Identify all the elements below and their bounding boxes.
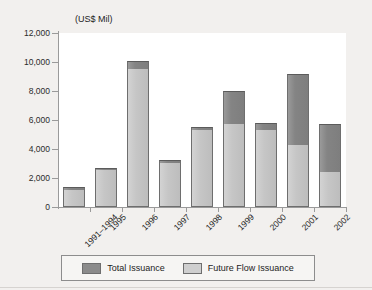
x-tick-label: 1996 xyxy=(140,212,160,232)
y-axis-title: (US$ Mil) xyxy=(75,14,113,24)
bar-group[interactable] xyxy=(191,127,213,207)
x-tick-label: 1999 xyxy=(236,212,256,232)
y-tick-label: 0 xyxy=(2,203,50,211)
bar-segment-future-flow-issuance[interactable] xyxy=(319,172,341,207)
y-tick-label: 6,000 xyxy=(2,116,50,124)
bar-group[interactable] xyxy=(255,123,277,207)
bar-group[interactable] xyxy=(319,124,341,207)
x-tick-label: 2001 xyxy=(300,212,320,232)
bar-group[interactable] xyxy=(159,160,181,207)
x-tick-mark xyxy=(282,207,283,212)
legend-swatch-total-issuance xyxy=(82,263,101,274)
y-tick-label: 10,000 xyxy=(2,58,50,66)
bar-segment-future-flow-issuance[interactable] xyxy=(63,190,85,207)
chart-container: (US$ Mil) 12,00010,0008,0006,0004,0002,0… xyxy=(0,0,372,290)
bar-segment-future-flow-issuance[interactable] xyxy=(127,69,149,207)
bar-segment-future-flow-issuance[interactable] xyxy=(255,130,277,207)
y-tick-label: 4,000 xyxy=(2,145,50,153)
x-tick-mark xyxy=(90,207,91,212)
bar-segment-total-issuance[interactable] xyxy=(319,124,341,172)
x-tick-mark xyxy=(250,207,251,212)
x-tick-label: 1995 xyxy=(108,212,128,232)
bottom-divider xyxy=(0,287,372,288)
x-tick-label: 1998 xyxy=(204,212,224,232)
y-tick-label: 12,000 xyxy=(2,29,50,37)
bar-segment-total-issuance[interactable] xyxy=(287,74,309,146)
bar-segment-future-flow-issuance[interactable] xyxy=(95,170,117,207)
bar-group[interactable] xyxy=(63,187,85,207)
bar-segment-future-flow-issuance[interactable] xyxy=(287,145,309,207)
legend-item-future-flow-issuance: Future Flow Issuance xyxy=(183,263,294,274)
bar-segment-future-flow-issuance[interactable] xyxy=(223,124,245,207)
x-tick-label: 1991–1994 xyxy=(82,212,119,249)
legend-label-future-flow-issuance: Future Flow Issuance xyxy=(208,263,294,273)
x-tick-mark xyxy=(186,207,187,212)
x-tick-label: 1997 xyxy=(172,212,192,232)
bar-group[interactable] xyxy=(287,74,309,207)
chart-legend: Total Issuance Future Flow Issuance xyxy=(61,255,315,281)
legend-swatch-future-flow-issuance xyxy=(183,263,202,274)
y-tick-label: 2,000 xyxy=(2,174,50,182)
bar-group[interactable] xyxy=(95,168,117,207)
x-tick-label: 2002 xyxy=(332,212,352,232)
x-axis-line xyxy=(58,207,347,208)
bar-segment-future-flow-issuance[interactable] xyxy=(191,130,213,207)
bar-segment-total-issuance[interactable] xyxy=(255,123,277,130)
x-tick-mark xyxy=(314,207,315,212)
x-tick-mark xyxy=(122,207,123,212)
legend-item-total-issuance: Total Issuance xyxy=(82,263,165,274)
y-tick-mark xyxy=(52,207,59,208)
bar-segment-total-issuance[interactable] xyxy=(127,61,149,69)
legend-label-total-issuance: Total Issuance xyxy=(107,263,165,273)
x-tick-label: 2000 xyxy=(268,212,288,232)
bar-group[interactable] xyxy=(223,91,245,207)
bar-series-area xyxy=(58,33,347,207)
x-tick-mark xyxy=(154,207,155,212)
bar-segment-future-flow-issuance[interactable] xyxy=(159,163,181,207)
bar-segment-total-issuance[interactable] xyxy=(223,91,245,124)
x-tick-mark xyxy=(346,207,347,212)
bar-group[interactable] xyxy=(127,61,149,207)
y-tick-label: 8,000 xyxy=(2,87,50,95)
x-tick-mark xyxy=(218,207,219,212)
